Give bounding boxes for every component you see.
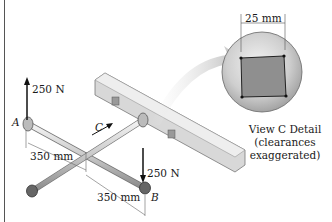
mounting-rail	[95, 73, 245, 172]
caption-note: (clearances exaggerated)	[230, 136, 332, 162]
detail-caption: View C Detail (clearances exaggerated)	[230, 123, 332, 162]
dimension-label-square: 25 mm	[245, 13, 282, 24]
force-arrow-b	[140, 148, 146, 183]
force-label-a: 250 N	[32, 84, 65, 95]
view-c-detail	[222, 14, 302, 112]
dimension-label-arm-2: 350 mm	[97, 192, 140, 203]
force-label-b: 250 N	[147, 168, 180, 179]
dimension-label-arm-1: 350 mm	[30, 151, 73, 162]
point-label-b: B	[151, 192, 159, 203]
force-arrow-a	[24, 77, 30, 120]
dimension-lines	[26, 130, 145, 216]
caption-title: View C Detail	[230, 123, 332, 136]
diagram-canvas	[0, 0, 332, 222]
point-label-a: A	[12, 117, 20, 128]
view-label-c: C	[95, 122, 103, 133]
